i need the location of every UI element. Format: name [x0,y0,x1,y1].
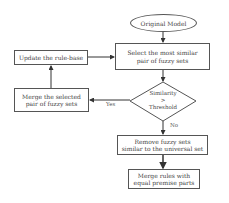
remove-fuzzy-sets-node: Remove fuzzy sets similar to the univers… [117,135,208,155]
start-label: Original Model [141,20,187,27]
yes-label: Yes [106,101,115,107]
select-line1: Select the most similar [127,49,197,57]
select-line2: pair of fuzzy sets [137,57,189,65]
update-rulebase-node: Update the rule-base [14,50,88,65]
decision-text: Similarity > Threshold [133,90,193,111]
merge-rules-node: Merge rules with equal premise parts [128,169,200,189]
merge-selected-node: Merge the selected pair of fuzzy sets [14,88,89,112]
no-label: No [170,122,178,128]
update-label: Update the rule-base [19,54,83,62]
start-node: Original Model [130,14,197,32]
select-similar-pair-node: Select the most similar pair of fuzzy se… [115,43,210,70]
